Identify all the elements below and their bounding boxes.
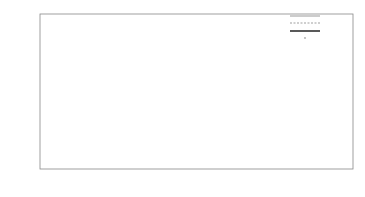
chart-plot-area [0,0,365,197]
legend-lines [290,16,320,39]
plot-frame [40,14,353,169]
